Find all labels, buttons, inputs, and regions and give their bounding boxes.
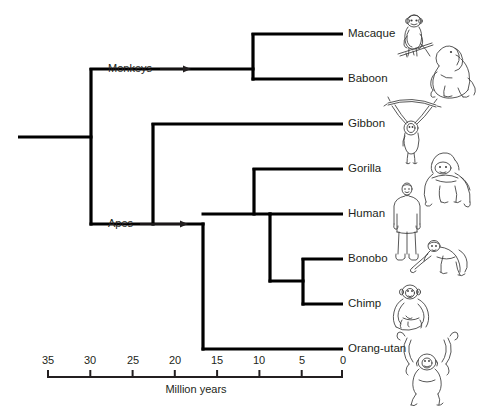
bonobo-illustration <box>410 241 467 276</box>
chimp-illustration <box>393 285 428 330</box>
animal-illustrations <box>0 0 482 411</box>
macaque-illustration <box>398 15 433 57</box>
orangutan-illustration <box>397 332 458 406</box>
phylogenetic-tree-figure: Macaque Baboon Gibbon Gorilla Human Bono… <box>0 0 482 411</box>
human-illustration <box>394 183 421 260</box>
gibbon-illustration <box>384 97 441 164</box>
gorilla-illustration <box>424 153 470 207</box>
baboon-illustration <box>431 46 476 98</box>
